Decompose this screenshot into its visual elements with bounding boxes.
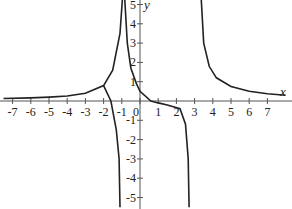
- x-tick-label: -2: [99, 105, 109, 119]
- x-tick-label: -6: [26, 105, 36, 119]
- curve-branch-0: [4, 0, 123, 98]
- y-tick-label: 2: [130, 55, 136, 69]
- curve-branch-2: [201, 0, 286, 95]
- x-tick-label: -3: [80, 105, 90, 119]
- y-axis-title: y: [142, 0, 150, 12]
- y-tick-label: 3: [130, 36, 136, 50]
- x-tick-label: 2: [173, 105, 179, 119]
- y-tick-label: -2: [126, 133, 136, 147]
- y-tick-label: 4: [130, 17, 136, 31]
- x-tick-label: -5: [44, 105, 54, 119]
- x-tick-label: -4: [62, 105, 72, 119]
- x-tick-label: 1: [155, 105, 161, 119]
- y-tick-label: -4: [126, 171, 136, 185]
- y-tick-label: 1: [130, 75, 136, 89]
- curve-branch-left-lower: [104, 86, 120, 208]
- x-tick-label: 7: [264, 105, 270, 119]
- curves: [4, 0, 286, 207]
- x-tick-label: 6: [246, 105, 252, 119]
- x-tick-label: 3: [192, 105, 198, 119]
- y-tick-label: -3: [126, 152, 136, 166]
- y-tick-label: -1: [126, 113, 136, 127]
- x-tick-label: 4: [210, 105, 216, 119]
- y-tick-label: 5: [130, 0, 136, 12]
- x-tick-label: -7: [8, 105, 18, 119]
- function-plot: -7-6-5-4-3-2-101234567-5-4-3-2-112345xy: [0, 0, 292, 209]
- x-tick-label: 5: [228, 105, 234, 119]
- y-tick-label: -5: [126, 191, 136, 205]
- x-axis-title: x: [279, 84, 286, 99]
